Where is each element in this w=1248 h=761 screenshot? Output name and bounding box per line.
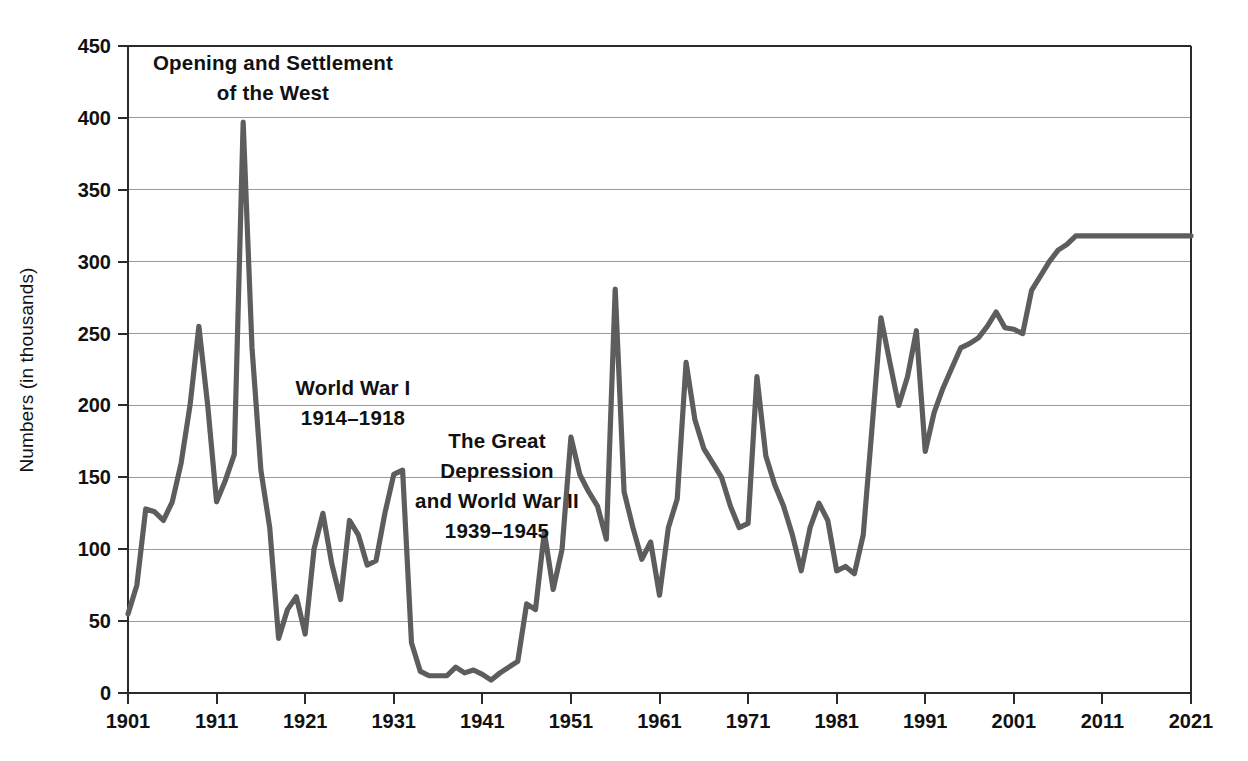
y-tick-label-50: 50 — [89, 610, 111, 632]
annotation-line: 1939–1945 — [445, 519, 549, 542]
annotation-opening-west: Opening and Settlementof the West — [153, 51, 393, 104]
x-tick-label-2001: 2001 — [992, 710, 1037, 732]
x-tick-label-1911: 1911 — [195, 710, 238, 732]
annotation-line: World War I — [296, 376, 411, 399]
x-tick-group: 1901191119211931194119511961197119811991… — [106, 693, 1214, 732]
chart-figure: Numbers (in thousands) 05010015020025030… — [0, 0, 1248, 761]
x-tick-label-2021: 2021 — [1169, 710, 1214, 732]
x-tick-label-1991: 1991 — [903, 710, 948, 732]
line-chart-svg: 050100150200250300350400450 190119111921… — [0, 0, 1248, 761]
x-tick-label-1941: 1941 — [460, 710, 505, 732]
page-bleed-ghost-text — [330, 733, 730, 753]
gridlines-group — [128, 46, 1191, 621]
y-tick-label-0: 0 — [100, 682, 111, 704]
annotations-group: Opening and Settlementof the WestWorld W… — [153, 51, 579, 542]
y-tick-label-250: 250 — [78, 323, 111, 345]
data-series-group — [128, 122, 1191, 680]
y-axis-title: Numbers (in thousands) — [16, 40, 38, 700]
x-tick-label-1961: 1961 — [637, 710, 682, 732]
y-tick-label-350: 350 — [78, 179, 111, 201]
x-tick-label-1951: 1951 — [549, 710, 594, 732]
annotation-line: The Great — [448, 429, 546, 452]
x-tick-label-2011: 2011 — [1081, 710, 1124, 732]
annotation-line: Opening and Settlement — [153, 51, 393, 74]
y-tick-label-300: 300 — [78, 251, 111, 273]
x-tick-label-1971: 1971 — [726, 710, 771, 732]
y-tick-label-200: 200 — [78, 394, 111, 416]
y-tick-group: 050100150200250300350400450 — [78, 35, 128, 704]
annotation-great-depression-wwii: The GreatDepressionand World War II1939–… — [415, 429, 579, 542]
y-tick-label-450: 450 — [78, 35, 111, 57]
x-tick-label-1931: 1931 — [372, 710, 417, 732]
x-tick-label-1981: 1981 — [814, 710, 859, 732]
annotation-line: 1914–1918 — [301, 406, 405, 429]
annotation-world-war-one: World War I1914–1918 — [296, 376, 411, 429]
data-line-0 — [128, 122, 1191, 680]
annotation-line: Depression — [440, 459, 554, 482]
y-tick-label-150: 150 — [78, 466, 111, 488]
x-tick-label-1921: 1921 — [283, 710, 328, 732]
y-tick-label-100: 100 — [78, 538, 111, 560]
annotation-line: of the West — [217, 81, 329, 104]
x-tick-label-1901: 1901 — [106, 710, 151, 732]
annotation-line: and World War II — [415, 489, 579, 512]
y-tick-label-400: 400 — [78, 107, 111, 129]
